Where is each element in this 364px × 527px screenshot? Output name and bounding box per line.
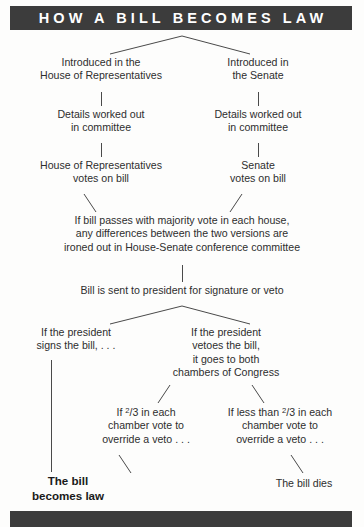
override-fail-numerator: 2 — [282, 406, 286, 415]
node-president-signs: If the president signs the bill, . . . — [16, 326, 136, 353]
node-vote-house: House of Representatives votes on bill — [16, 159, 186, 186]
override-success-suffix: in each chamber vote to override a veto … — [102, 406, 190, 445]
node-override-fail: If less than 2/3 in each chamber vote to… — [212, 406, 348, 446]
node-introduced-senate: Introduced in the Senate — [196, 56, 320, 83]
connector-president-to-vetoes — [182, 306, 250, 324]
override-success-numerator: 2 — [125, 406, 129, 415]
connector-apex-to-senate — [182, 36, 250, 54]
node-president-vetoes: If the president vetoes the bill, it goe… — [156, 326, 296, 380]
node-committee-senate: Details worked out in committee — [189, 108, 327, 135]
override-fail-prefix: If less than — [228, 406, 282, 418]
node-becomes-law: The bill becomes law — [10, 474, 126, 503]
node-vote-senate: Senate votes on bill — [196, 159, 320, 186]
node-conference-committee: If bill passes with majority vote in eac… — [18, 214, 346, 254]
bottom-banner — [10, 511, 352, 527]
node-override-success: If 2/3 in each chamber vote to override … — [96, 406, 196, 446]
node-sent-to-president: Bill is sent to president for signature … — [18, 284, 346, 297]
title-banner: HOW A BILL BECOMES LAW — [10, 6, 352, 30]
connector-senate-vote-to-conference — [230, 194, 242, 212]
node-introduced-house: Introduced in the House of Representativ… — [18, 56, 184, 83]
connector-apex-to-house — [110, 36, 182, 54]
connector-congress-to-override-success — [158, 385, 170, 403]
node-committee-house: Details worked out in committee — [32, 108, 170, 135]
connector-override-fail-to-bill-dies — [291, 455, 303, 473]
connector-congress-to-override-fail — [252, 385, 264, 403]
connector-override-success-to-becomes-law — [119, 455, 131, 473]
node-bill-dies: The bill dies — [252, 477, 356, 490]
override-success-prefix: If — [116, 406, 125, 418]
page-title: HOW A BILL BECOMES LAW — [35, 11, 328, 26]
bill-becomes-law-infographic: HOW A BILL BECOMES LAW Introduced in the… — [0, 0, 364, 527]
connector-house-vote-to-conference — [84, 194, 96, 212]
connector-president-to-signs — [110, 306, 182, 324]
